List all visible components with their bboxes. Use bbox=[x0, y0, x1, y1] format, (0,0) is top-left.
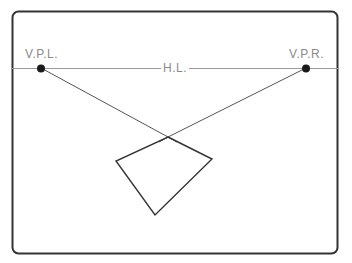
horizon-line-label: H.L. bbox=[161, 62, 189, 74]
vanishing-point-right-dot bbox=[302, 65, 310, 73]
vanishing-point-left-label: V.P.L. bbox=[25, 48, 58, 60]
vanishing-point-right-label: V.P.R. bbox=[289, 48, 324, 60]
diagram-svg bbox=[0, 0, 352, 263]
vanishing-point-left-dot bbox=[37, 65, 45, 73]
perspective-diagram: V.P.L. V.P.R. H.L. bbox=[0, 0, 352, 263]
